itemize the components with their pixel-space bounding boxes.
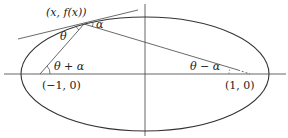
left-focus-label: (−1, 0): [42, 79, 81, 92]
right-focus-ray-dashed: [238, 70, 250, 74]
theta-label: θ: [60, 30, 67, 43]
theta-minus-alpha-label: θ − α: [190, 60, 221, 73]
point-label: (x, f(x)): [46, 6, 87, 19]
alpha-label: α: [96, 18, 104, 31]
theta-plus-alpha-label: θ + α: [54, 60, 85, 73]
angle-arc-theta-plus-alpha: [47, 66, 50, 74]
angle-arc-theta-minus-alpha: [229, 68, 230, 74]
right-focus-label: (1, 0): [225, 79, 255, 92]
ellipse-diagram: (x, f(x)) α θ θ + α θ − α (−1, 0) (1, 0): [0, 0, 288, 138]
